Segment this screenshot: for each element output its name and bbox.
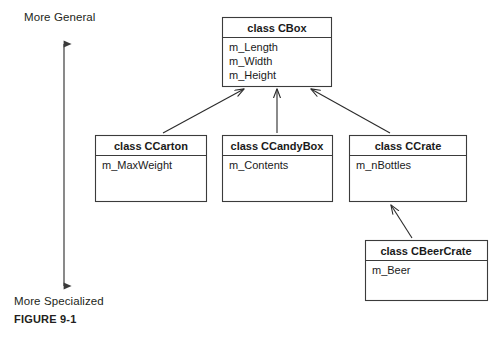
class-box-ccarton-title: class CCarton <box>114 140 188 152</box>
axis-label-more-general: More General <box>24 11 96 23</box>
class-box-cbox-attr-0: m_Length <box>229 41 278 53</box>
class-box-cbeercrate-title: class CBeerCrate <box>380 245 471 257</box>
axis-label-more-specialized: More Specialized <box>14 295 104 307</box>
class-box-cbox-attr-1: m_Width <box>229 55 272 67</box>
figure-caption: FIGURE 9-1 <box>14 313 77 325</box>
class-box-cbox[interactable]: class CBox m_Length m_Width m_Height <box>223 18 332 87</box>
class-box-ccrate-title: class CCrate <box>375 140 442 152</box>
connector-ccarton-to-cbox <box>163 89 244 133</box>
class-diagram: class CBox m_Length m_Width m_Height cla… <box>0 0 499 339</box>
class-box-ccandybox-title: class CCandyBox <box>231 140 325 152</box>
class-box-cbeercrate[interactable]: class CBeerCrate m_Beer <box>366 241 488 301</box>
figure-canvas: class CBox m_Length m_Width m_Height cla… <box>0 0 499 339</box>
class-box-ccandybox-attr-0: m_Contents <box>229 159 289 171</box>
class-box-ccrate-attr-0: m_nBottles <box>356 159 412 171</box>
class-box-ccarton-attr-0: m_MaxWeight <box>102 159 172 171</box>
class-box-ccarton[interactable]: class CCarton m_MaxWeight <box>96 136 207 202</box>
connector-ccrate-to-cbox <box>311 89 390 133</box>
class-box-cbox-attr-2: m_Height <box>229 69 276 81</box>
connector-cbeercrate-to-ccrate <box>391 205 412 238</box>
class-box-ccrate[interactable]: class CCrate m_nBottles <box>350 136 467 202</box>
class-box-cbeercrate-attr-0: m_Beer <box>372 264 411 276</box>
class-box-cbox-title: class CBox <box>247 22 307 34</box>
class-box-ccandybox[interactable]: class CCandyBox m_Contents <box>223 136 333 202</box>
